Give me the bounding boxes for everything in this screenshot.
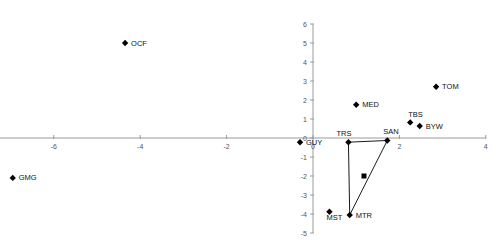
- x-tick-label: 4: [484, 143, 488, 150]
- x-tick-label: -6: [51, 143, 57, 150]
- x-tick-label: -2: [223, 143, 229, 150]
- data-point-marker: [122, 40, 128, 46]
- data-point-marker: [417, 123, 423, 129]
- x-tick-label: -4: [137, 143, 143, 150]
- data-points: OCFGMGGUYMEDTOMTBSBYWTRSSANMTRMST: [10, 39, 459, 222]
- y-tick-label: -5: [301, 230, 307, 237]
- y-tick-label: 5: [303, 40, 307, 47]
- data-point-label: TRS: [336, 129, 351, 138]
- data-point-marker: [347, 212, 353, 218]
- y-axis-ticks: -5-4-3-2-10123456: [301, 21, 314, 237]
- data-point-label: MTR: [356, 211, 373, 220]
- y-tick-label: -3: [301, 192, 307, 199]
- connection-lines: [348, 140, 387, 214]
- data-point-label: MED: [362, 100, 379, 109]
- axes-group: [0, 24, 486, 233]
- data-point-label: GMG: [19, 173, 37, 182]
- data-point-label: TOM: [442, 82, 459, 91]
- data-point-marker: [345, 139, 351, 145]
- scatter-plot-figure: -8-6-4-2024 -5-4-3-2-10123456 OCFGMGGUYM…: [0, 0, 496, 242]
- centroid-marker: [361, 174, 366, 179]
- connection-line: [350, 140, 388, 214]
- data-point-label: GUY: [306, 138, 322, 147]
- y-tick-label: 2: [303, 97, 307, 104]
- y-tick-label: 4: [303, 59, 307, 66]
- y-tick-label: -4: [301, 211, 307, 218]
- y-tick-label: 6: [303, 21, 307, 28]
- connection-line: [348, 142, 349, 215]
- data-point-label: MST: [326, 213, 342, 222]
- x-axis-ticks: -8-6-4-2024: [0, 135, 488, 150]
- data-point-marker: [433, 84, 439, 90]
- data-point-marker: [407, 119, 413, 125]
- centroid-square-marker: [361, 174, 366, 179]
- connection-line: [348, 140, 387, 142]
- y-tick-label: 1: [303, 116, 307, 123]
- data-point-label: OCF: [131, 39, 147, 48]
- y-tick-label: -2: [301, 173, 307, 180]
- y-tick-label: -1: [301, 154, 307, 161]
- plot-canvas: -8-6-4-2024 -5-4-3-2-10123456 OCFGMGGUYM…: [0, 0, 496, 242]
- data-point-marker: [10, 175, 16, 181]
- x-tick-label: 2: [397, 143, 401, 150]
- data-point-marker: [353, 102, 359, 108]
- data-point-label: BYW: [426, 122, 444, 131]
- data-point-label: SAN: [383, 127, 398, 136]
- y-tick-label: 3: [303, 78, 307, 85]
- data-point-label: TBS: [408, 110, 423, 119]
